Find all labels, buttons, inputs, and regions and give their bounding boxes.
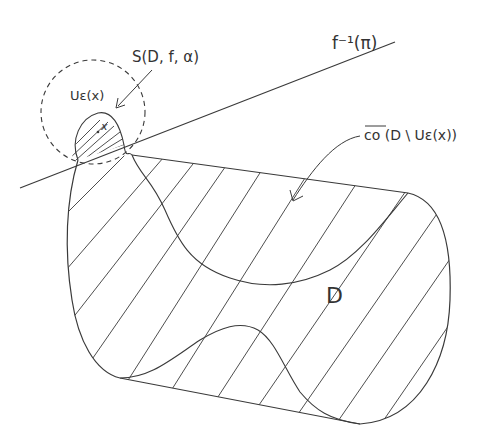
domain-hatching xyxy=(40,140,480,440)
neighborhood-label: Uε(x) xyxy=(70,88,104,103)
preimage-line xyxy=(20,42,395,188)
convex-hull-outline xyxy=(67,155,450,424)
point-x-label: x xyxy=(100,120,108,133)
point-x-dot xyxy=(97,131,100,134)
domain-boundary-lower xyxy=(120,325,360,424)
slice-arrow xyxy=(116,70,152,108)
slice-region: x xyxy=(70,113,132,160)
domain-region xyxy=(40,140,480,440)
slice-label: S(D, f, α) xyxy=(132,48,199,66)
convex-hull-label: co (D \ Uε(x)) xyxy=(364,127,457,143)
domain-label: D xyxy=(326,283,343,308)
preimage-line-label: f⁻¹(π) xyxy=(332,33,377,53)
neighborhood-circle xyxy=(41,60,145,164)
diagram-canvas: x f⁻¹(π) Uε(x) S(D, f, α) co (D \ Uε(x))… xyxy=(0,0,502,446)
convex-hull-arrow xyxy=(290,136,360,201)
